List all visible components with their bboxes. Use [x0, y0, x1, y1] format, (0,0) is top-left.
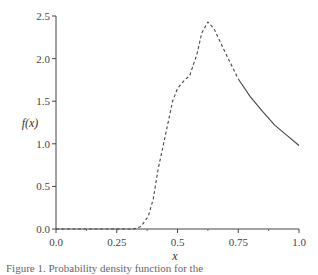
solid-curve-segment [238, 79, 299, 146]
dashed-curve-segment [56, 22, 238, 229]
x-tick-label: 0.5 [171, 236, 185, 248]
x-tick-label: 0.75 [229, 236, 249, 248]
x-tick-label: 0.0 [49, 236, 63, 248]
x-tick-label: 1.0 [292, 236, 306, 248]
y-tick-label: 0.5 [36, 180, 50, 192]
y-tick-label: 0.0 [36, 223, 50, 235]
axes: 0.00.250.50.751.00.00.51.01.52.02.5 [36, 10, 306, 248]
y-tick-label: 1.0 [36, 138, 50, 150]
x-tick-label: 0.25 [107, 236, 127, 248]
density-chart: 0.00.250.50.751.00.00.51.01.52.02.5 x f(… [0, 0, 318, 275]
y-tick-label: 1.5 [36, 95, 50, 107]
y-tick-label: 2.0 [36, 53, 50, 65]
y-tick-label: 2.5 [36, 10, 50, 22]
y-axis-label: f(x) [22, 116, 39, 130]
x-axis-label: x [171, 249, 178, 263]
figure-caption: Figure 1. Probability density function f… [6, 262, 203, 274]
density-curve [56, 22, 299, 229]
